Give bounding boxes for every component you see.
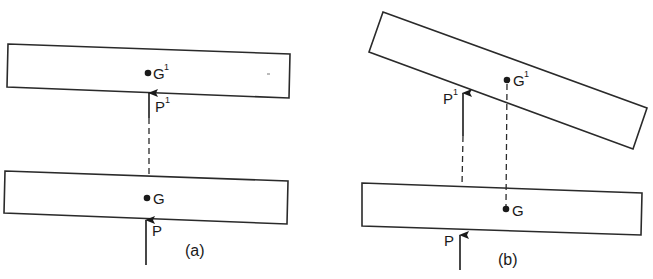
- centroid-g-prime-dot-a: [145, 70, 152, 77]
- diagram-canvas: G 1 P 1 G P (a) G 1: [0, 0, 653, 279]
- label-g-prime-sup-a: 1: [164, 62, 169, 72]
- body-original-b: [362, 183, 642, 235]
- caption-a: (a): [185, 242, 205, 259]
- caption-b: (b): [498, 251, 518, 268]
- label-p-prime-b: P: [443, 90, 453, 107]
- label-p-a: P: [152, 222, 162, 239]
- label-p-prime-sup-b: 1: [453, 87, 458, 97]
- label-g-prime-sup-b: 1: [524, 69, 529, 79]
- label-p-prime-sup-a: 1: [165, 95, 170, 105]
- label-g-a: G: [153, 190, 165, 207]
- label-g-prime-b: G: [513, 72, 525, 89]
- label-p-b: P: [444, 232, 454, 249]
- dashed-force-line-b: [462, 136, 463, 186]
- panel-b: G 1 P 1 G P (b): [362, 12, 647, 270]
- panel-a: G 1 P 1 G P (a): [4, 44, 290, 265]
- centroid-g-prime-dot-b: [504, 77, 511, 84]
- label-p-prime-a: P: [155, 98, 165, 115]
- label-g-prime-a: G: [153, 65, 165, 82]
- label-g-b: G: [512, 202, 524, 219]
- centroid-g-dot-b: [503, 206, 510, 213]
- centroid-g-dot-a: [144, 195, 151, 202]
